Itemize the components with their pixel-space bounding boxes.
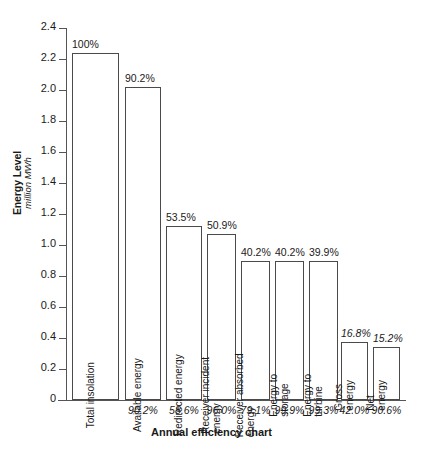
y-axis-tick: 2.4 (0, 28, 66, 29)
bar-category-label-line: Receiver absorbed (233, 353, 244, 437)
y-axis-tick-mark (59, 400, 66, 401)
y-axis-tick-label: 1.2 (41, 206, 56, 218)
y-axis-tick-label: 1.0 (41, 237, 56, 249)
bar[interactable]: Receiver incidentenergy (207, 234, 236, 400)
y-axis-tick-mark (59, 152, 66, 153)
y-axis-tick-mark (59, 121, 66, 122)
y-axis-tick-mark (59, 245, 66, 246)
x-axis-title: Annual efficiency chart (0, 426, 423, 438)
bar-category-label: Redirected energy (173, 354, 184, 436)
y-axis-tick-mark (59, 307, 66, 308)
y-axis-tick: 0.8 (0, 276, 66, 277)
bar-category-label-line: energy (210, 357, 221, 434)
y-axis-tick-mark (59, 338, 66, 339)
y-axis-tick-label: 1.8 (41, 113, 56, 125)
bar-value-label: 53.5% (166, 211, 196, 223)
bar-category-label-line: Redirected energy (173, 354, 184, 436)
y-axis-tick-mark (59, 369, 66, 370)
bar-category-label: Available energy (132, 358, 143, 432)
y-axis-tick-label: 0.2 (41, 361, 56, 373)
y-axis-tick: 0.4 (0, 338, 66, 339)
bar[interactable]: Netenergy (373, 347, 400, 400)
bar-category-label: Receiver incidentenergy (199, 357, 221, 434)
bar[interactable]: Energy tostorage (275, 261, 304, 401)
y-axis-tick: 1.8 (0, 121, 66, 122)
stage-efficiency-label: 90.2% (122, 404, 164, 416)
y-axis-tick-label: 0.6 (41, 299, 56, 311)
bar-category-label-line: energy (244, 353, 255, 437)
y-axis-tick: 0 (0, 400, 66, 401)
y-axis-tick-label: 0 (50, 392, 56, 404)
bar[interactable]: Available energy (125, 87, 161, 400)
y-axis-tick-mark (59, 183, 66, 184)
bar-value-label: 50.9% (207, 219, 237, 231)
y-axis-tick: 0.6 (0, 307, 66, 308)
bar-value-label: 15.2% (373, 332, 403, 344)
annual-efficiency-chart: Energy Level million MWh 2.42.22.01.81.6… (0, 0, 423, 456)
bar-value-label: 90.2% (125, 72, 155, 84)
y-axis-tick: 1.2 (0, 214, 66, 215)
y-axis-tick: 1.6 (0, 152, 66, 153)
bar-category-label-line: Receiver incident (199, 357, 210, 434)
y-axis-tick: 2.0 (0, 90, 66, 91)
y-axis-tick-label: 0.4 (41, 330, 56, 342)
bar-category-label-line: Available energy (132, 358, 143, 432)
y-axis-tick: 1.4 (0, 183, 66, 184)
y-axis-tick-label: 1.4 (41, 175, 56, 187)
plot-area: Total insolation100%Available energy90.2… (66, 28, 406, 400)
bar[interactable]: Total insolation (72, 53, 119, 400)
y-axis-tick-label: 1.6 (41, 144, 56, 156)
y-axis-tick-mark (59, 59, 66, 60)
y-axis-tick: 2.2 (0, 59, 66, 60)
bar-category-label: Total insolation (84, 362, 95, 428)
y-axis-tick-mark (59, 28, 66, 29)
y-axis-tick-label: 2.4 (41, 20, 56, 32)
bar-value-label: 16.8% (341, 327, 371, 339)
y-axis-tick-mark (59, 214, 66, 215)
bar-value-label: 39.9% (309, 246, 339, 258)
bar[interactable]: Receiver absorbedenergy (241, 261, 270, 401)
stage-efficiency-label: 58.6% (163, 404, 205, 416)
bar-value-label: 40.2% (275, 246, 305, 258)
y-axis-tick-label: 2.2 (41, 51, 56, 63)
y-axis-tick-label: 0.8 (41, 268, 56, 280)
y-axis-tick: 1.0 (0, 245, 66, 246)
bar-value-label: 100% (72, 38, 99, 50)
bar-category-label: Receiver absorbedenergy (233, 353, 255, 437)
bar[interactable]: Redirected energy (166, 226, 202, 400)
y-axis-tick-mark (59, 276, 66, 277)
y-axis-tick: 0.2 (0, 369, 66, 370)
bar-value-label: 40.2% (241, 246, 271, 258)
y-axis-tick-label: 2.0 (41, 82, 56, 94)
stage-efficiency-label: 90.6% (366, 404, 408, 416)
y-axis-tick-mark (59, 90, 66, 91)
bar-category-label-line: Total insolation (84, 362, 95, 428)
